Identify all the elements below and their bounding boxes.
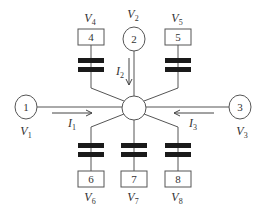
node-5-voltage: V5 — [171, 11, 182, 27]
capacitor-plate — [165, 58, 191, 63]
node-2-number: 2 — [131, 33, 137, 45]
node-7-voltage: V7 — [127, 190, 138, 206]
capacitor-plate — [78, 143, 104, 148]
current-i1: I1 — [52, 110, 92, 132]
capacitor-plate — [165, 143, 191, 148]
node-4: 4 V4 — [78, 11, 104, 45]
node-8-number: 8 — [175, 173, 181, 185]
hub-node — [122, 96, 146, 120]
capacitor-plate — [78, 67, 104, 72]
current-i3-label: I3 — [188, 116, 197, 132]
capacitor-plate — [78, 58, 104, 63]
node-3: 3 V3 — [229, 95, 251, 140]
node-4-voltage: V4 — [84, 11, 95, 27]
current-i1-label: I1 — [67, 116, 76, 132]
node-6: 6 V6 — [78, 171, 104, 206]
node-6-number: 6 — [88, 173, 94, 185]
node-7-number: 7 — [131, 173, 137, 185]
node-8-voltage: V8 — [171, 190, 182, 206]
node-1-voltage: V1 — [20, 124, 31, 140]
node-5-number: 5 — [175, 31, 181, 43]
current-i2: I2 — [115, 58, 132, 85]
node-3-voltage: V3 — [236, 124, 247, 140]
node-2: 2 V2 — [123, 7, 145, 51]
node-7: 7 V7 — [121, 171, 147, 206]
current-i3: I3 — [174, 110, 214, 132]
capacitor-plate — [121, 143, 147, 148]
wire-node8-hub — [144, 114, 178, 171]
capacitor-plate — [165, 67, 191, 72]
circuit-diagram: 1 V1 2 V2 3 V3 4 V4 5 V5 6 V6 7 V7 8 — [0, 0, 260, 212]
node-4-number: 4 — [88, 31, 94, 43]
node-3-number: 3 — [237, 101, 243, 113]
node-5: 5 V5 — [165, 11, 191, 45]
node-1: 1 V1 — [15, 95, 37, 140]
capacitor-plate — [165, 152, 191, 157]
current-i2-label: I2 — [115, 64, 124, 80]
node-6-voltage: V6 — [84, 190, 95, 206]
wire-node6-hub — [91, 114, 124, 171]
capacitor-plate — [78, 152, 104, 157]
capacitor-plate — [121, 152, 147, 157]
node-8: 8 V8 — [165, 171, 191, 206]
wire-node5-hub — [144, 45, 178, 101]
node-1-number: 1 — [23, 101, 29, 113]
node-2-voltage: V2 — [127, 7, 138, 23]
